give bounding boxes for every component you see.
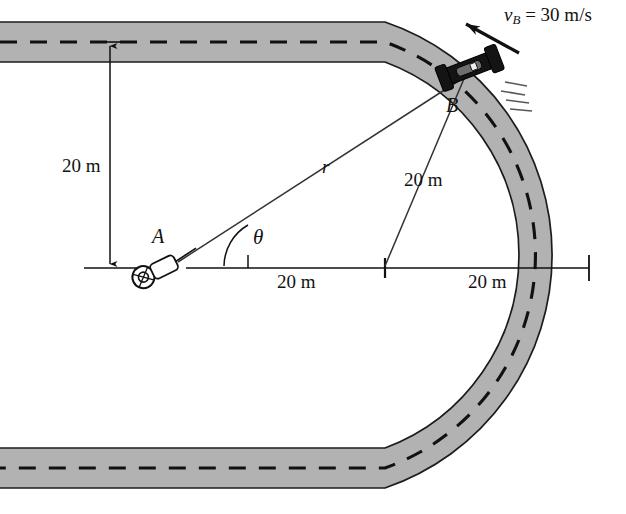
velocity-value: 30: [541, 4, 560, 25]
velocity-equals: =: [525, 4, 536, 25]
velocity-label: vB = 30 m/s: [504, 5, 592, 24]
radius-dimension-label: 20 m: [404, 170, 443, 189]
radar-antenna: [174, 248, 197, 261]
motion-speed-lines: [501, 82, 532, 111]
vertical-dimension-label: 20 m: [62, 156, 101, 175]
angle-theta-arc: [224, 225, 248, 266]
velocity-subscript: B: [512, 12, 520, 27]
figure-canvas: vB = 30 m/s B A r θ 20 m 20 m 20 m 20 m: [0, 0, 626, 514]
radius-r-label: r: [322, 157, 329, 176]
racetrack-diagram-svg: [0, 0, 626, 514]
track-inner-edge: [0, 62, 519, 448]
point-a-label: A: [152, 226, 164, 246]
radar-housing: [149, 254, 179, 280]
radar-observer-a: [129, 241, 202, 292]
racetrack-surface: [0, 22, 552, 488]
point-b-label: B: [446, 95, 458, 115]
velocity-units: m/s: [564, 4, 591, 25]
horizontal-right-dimension-label: 20 m: [468, 272, 507, 291]
horizontal-left-dimension-label: 20 m: [277, 272, 316, 291]
track-band: [0, 22, 552, 488]
angle-theta-label: θ: [253, 227, 263, 248]
